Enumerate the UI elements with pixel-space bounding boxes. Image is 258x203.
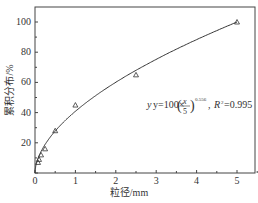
svg-text:40: 40: [21, 107, 31, 118]
svg-text:20: 20: [21, 137, 31, 148]
chart: 20406080100 012345 粒径/mm 累积分布/% y y=100×…: [0, 0, 258, 203]
svg-text:2: 2: [113, 175, 118, 186]
fit-curve: [35, 22, 237, 173]
equation-annotation: y y=100× x 5 ( ) 0.556 , R 2 =0.995: [146, 97, 252, 116]
svg-text:0.556: 0.556: [195, 97, 207, 102]
plot-frame: [35, 7, 255, 173]
x-axis: 012345: [33, 170, 258, 186]
svg-text:3: 3: [154, 175, 159, 186]
svg-text:4: 4: [194, 175, 199, 186]
svg-text:60: 60: [21, 76, 31, 87]
x-axis-label: 粒径/mm: [110, 186, 149, 198]
svg-text:(: (: [177, 98, 182, 114]
data-point: [73, 103, 78, 108]
svg-text:,: ,: [208, 99, 211, 110]
data-point: [235, 20, 240, 25]
svg-text:5: 5: [183, 107, 187, 116]
svg-text:R: R: [213, 99, 220, 110]
svg-text:5: 5: [235, 175, 240, 186]
svg-text:=0.995: =0.995: [224, 99, 252, 110]
data-point: [134, 72, 139, 77]
y-axis-label: 累积分布/%: [4, 64, 15, 115]
data-points: [36, 20, 240, 165]
svg-text:80: 80: [21, 46, 31, 57]
svg-text:100: 100: [16, 16, 31, 27]
svg-text:x: x: [182, 97, 187, 106]
svg-text:0: 0: [33, 175, 38, 186]
svg-text:1: 1: [73, 175, 78, 186]
svg-text:y: y: [146, 99, 152, 110]
